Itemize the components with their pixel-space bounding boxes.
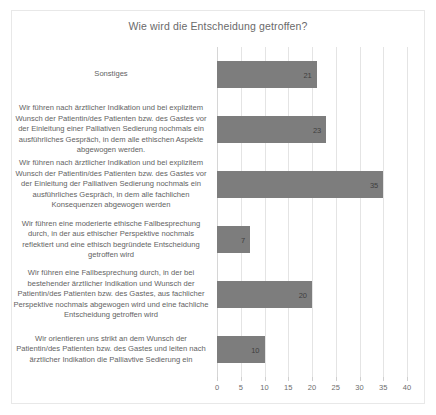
gridline-15: [288, 47, 289, 377]
x-tick-label-10: 10: [260, 383, 268, 392]
bar: 20: [217, 281, 312, 308]
x-tick-label-40: 40: [403, 383, 411, 392]
x-tick-mark-5: [241, 377, 242, 381]
plot-wrapper: SonstigesWir führen nach ärztlicher Indi…: [12, 47, 426, 377]
x-tick-label-30: 30: [355, 383, 363, 392]
category-label: Wir führen nach ärztlicher Indikation un…: [13, 103, 209, 156]
bar: 10: [217, 336, 265, 363]
x-tick-label-25: 25: [332, 383, 340, 392]
bar-value-label: 23: [313, 125, 321, 134]
category-label: Wir führen nach ärztlicher Indikation un…: [13, 158, 209, 211]
x-tick-label-15: 15: [284, 383, 292, 392]
x-tick-mark-30: [360, 377, 361, 381]
x-tick-mark-35: [383, 377, 384, 381]
x-axis: 0510152025303540: [217, 377, 407, 403]
bar-value-label: 7: [241, 235, 245, 244]
x-tick-mark-0: [217, 377, 218, 381]
x-tick-label-5: 5: [239, 383, 243, 392]
x-tick-label-20: 20: [308, 383, 316, 392]
category-label: Wir führen eine Fallbesprechung durch, i…: [13, 268, 209, 321]
gridline-35: [383, 47, 384, 377]
x-tick-mark-10: [265, 377, 266, 381]
bar: 23: [217, 116, 326, 143]
chart-title: Wie wird die Entscheidung getroffen?: [12, 20, 424, 32]
gridline-25: [336, 47, 337, 377]
gridline-0: [217, 47, 218, 377]
bar: 35: [217, 171, 383, 198]
category-label: Sonstiges: [13, 69, 209, 80]
bar-value-label: 35: [370, 180, 378, 189]
category-labels-column: SonstigesWir führen nach ärztlicher Indi…: [12, 47, 215, 377]
bar-value-label: 21: [303, 70, 311, 79]
bar: 7: [217, 226, 250, 253]
x-tick-mark-20: [312, 377, 313, 381]
x-tick-mark-25: [336, 377, 337, 381]
x-tick-mark-15: [288, 377, 289, 381]
bar-value-label: 10: [251, 345, 259, 354]
gridline-10: [265, 47, 266, 377]
x-tick-label-0: 0: [215, 383, 219, 392]
category-label: Wir orientieren uns strikt an dem Wunsch…: [13, 334, 209, 366]
gridline-5: [241, 47, 242, 377]
category-label: Wir führen eine moderierte ethische Fall…: [13, 219, 209, 261]
bar-value-label: 20: [299, 290, 307, 299]
gridline-40: [407, 47, 408, 377]
chart-container: Wie wird die Entscheidung getroffen? Son…: [11, 10, 425, 404]
plot-area: 21233572010: [217, 47, 407, 377]
bar: 21: [217, 61, 317, 88]
gridline-20: [312, 47, 313, 377]
x-tick-label-35: 35: [379, 383, 387, 392]
gridline-30: [360, 47, 361, 377]
x-tick-mark-40: [407, 377, 408, 381]
